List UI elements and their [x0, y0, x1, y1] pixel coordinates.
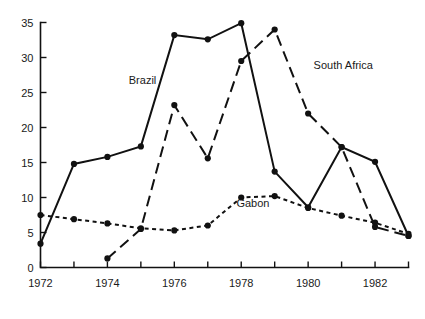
data-point-gabon-1973: [71, 216, 77, 222]
data-point-south-africa-1976: [171, 102, 177, 108]
data-point-gabon-1975: [138, 225, 144, 231]
data-point-south-africa-1979: [272, 26, 278, 32]
series-line-gabon: [41, 196, 409, 234]
data-point-south-africa-1980: [305, 110, 311, 116]
data-point-gabon-1976: [171, 227, 177, 233]
data-point-brazil-1982: [372, 159, 378, 165]
data-point-gabon-1979: [272, 193, 278, 199]
data-point-brazil-1974: [104, 154, 110, 160]
data-point-brazil-1976: [171, 32, 177, 38]
line-chart: 05101520253035 197219741976197819801982 …: [0, 0, 425, 319]
x-tick-label-1980: 1980: [296, 277, 320, 289]
y-tick-label-5: 5: [27, 227, 33, 239]
data-point-brazil-1973: [71, 161, 77, 167]
series-label-south-africa: South Africa: [314, 59, 374, 71]
x-tick-label-1976: 1976: [162, 277, 186, 289]
data-point-brazil-1975: [138, 143, 144, 149]
data-point-gabon-1972: [37, 212, 43, 218]
x-axis-tick-labels: 197219741976197819801982: [28, 277, 387, 289]
x-tick-label-1982: 1982: [363, 277, 387, 289]
series-markers: [37, 20, 411, 261]
series-label-brazil: Brazil: [129, 74, 157, 86]
x-tick-label-1978: 1978: [229, 277, 253, 289]
y-tick-label-30: 30: [21, 52, 33, 64]
y-axis-tick-labels: 05101520253035: [21, 17, 33, 274]
x-tick-label-1974: 1974: [95, 277, 119, 289]
data-point-south-africa-1981: [338, 144, 344, 150]
data-point-gabon-1983: [405, 231, 411, 237]
data-point-south-africa-1974: [104, 255, 110, 261]
x-axis-ticks: [41, 262, 409, 268]
data-point-south-africa-1977: [205, 155, 211, 161]
data-point-gabon-1977: [205, 222, 211, 228]
chart-canvas: 05101520253035 197219741976197819801982 …: [0, 0, 425, 319]
data-point-brazil-1977: [205, 36, 211, 42]
data-point-gabon-1980: [305, 205, 311, 211]
y-tick-label-0: 0: [27, 262, 33, 274]
series-label-gabon: Gabon: [236, 197, 269, 209]
y-tick-label-15: 15: [21, 157, 33, 169]
y-tick-label-20: 20: [21, 122, 33, 134]
data-point-gabon-1982: [372, 220, 378, 226]
y-tick-label-25: 25: [21, 87, 33, 99]
y-tick-label-10: 10: [21, 192, 33, 204]
data-point-brazil-1978: [238, 20, 244, 26]
x-tick-label-1972: 1972: [28, 277, 52, 289]
data-point-brazil-1979: [272, 169, 278, 175]
y-tick-label-35: 35: [21, 17, 33, 29]
data-point-gabon-1974: [104, 220, 110, 226]
data-point-gabon-1981: [338, 213, 344, 219]
data-point-south-africa-1978: [238, 58, 244, 64]
data-point-brazil-1972: [37, 241, 43, 247]
